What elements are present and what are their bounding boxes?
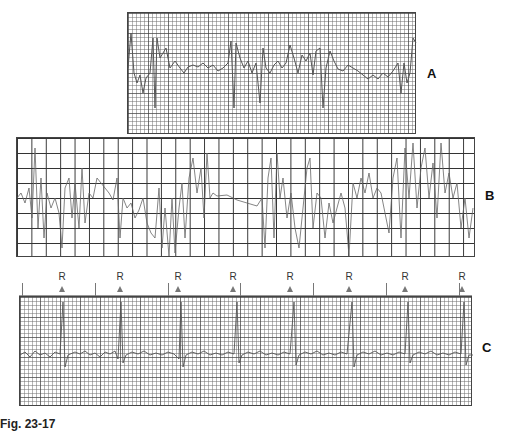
time-tick <box>240 283 241 297</box>
r-label: R <box>114 271 126 282</box>
panel-label-a: A <box>427 66 436 81</box>
r-arrow-icon <box>287 286 293 292</box>
time-tick <box>168 283 169 297</box>
r-arrow-icon <box>59 286 65 292</box>
r-arrow-icon <box>117 286 123 292</box>
r-label: R <box>172 271 184 282</box>
time-tick <box>95 283 96 297</box>
r-arrow-icon <box>230 286 236 292</box>
r-label: R <box>284 271 296 282</box>
time-tick <box>22 283 23 297</box>
r-label: R <box>456 271 468 282</box>
r-arrow-icon <box>402 286 408 292</box>
ecg-trace-b <box>17 138 476 258</box>
r-arrow-icon <box>175 286 181 292</box>
r-label: R <box>399 271 411 282</box>
r-arrow-icon <box>346 286 352 292</box>
panel-label-b: B <box>485 188 494 203</box>
time-tick <box>313 283 314 297</box>
figure-caption: Fig. 23-17 <box>0 417 55 431</box>
r-label: R <box>56 271 68 282</box>
time-tick <box>386 283 387 297</box>
r-label: R <box>227 271 239 282</box>
r-label: R <box>343 271 355 282</box>
ecg-trace-a <box>128 13 417 135</box>
ecg-trace-c <box>20 297 473 407</box>
panel-label-c: C <box>482 340 491 355</box>
ecg-panel-b <box>16 137 475 257</box>
ecg-panel-a <box>127 12 416 134</box>
ecg-panel-c <box>19 296 472 406</box>
r-arrow-icon <box>459 286 465 292</box>
